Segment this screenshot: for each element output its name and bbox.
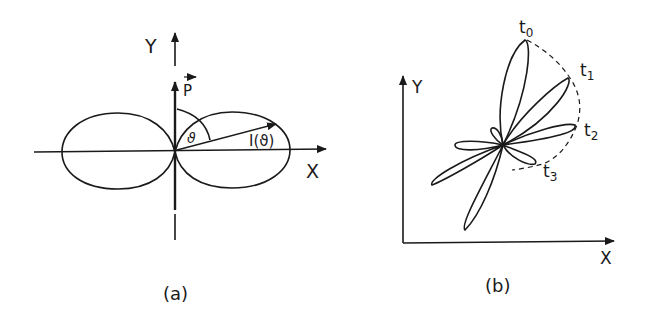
caption-a: (a): [163, 283, 188, 304]
envelope-dashed: [512, 40, 580, 170]
figure-canvas: Y X P ϑ I(ϑ) (a): [0, 0, 645, 328]
x-axis-b: [403, 241, 614, 243]
time-label-t3: t3: [543, 161, 557, 184]
time-label-t0: t0: [519, 17, 533, 40]
lobe-t3: [503, 145, 536, 164]
p-vector-label: P: [183, 82, 192, 100]
y-axis-a-label: Y: [144, 35, 157, 57]
time-label-t2: t2: [584, 120, 598, 143]
radiation-lobes: [432, 40, 576, 230]
y-axis-b-label: Y: [411, 77, 423, 97]
x-axis-a-label: X: [306, 160, 319, 182]
time-label-t1: t1: [580, 60, 594, 83]
x-axis-b-label: X: [600, 248, 612, 268]
angle-label: ϑ: [187, 130, 196, 146]
lobe-left: [455, 141, 503, 150]
panel-a: [34, 33, 326, 240]
caption-b: (b): [485, 275, 510, 296]
intensity-label: I(ϑ): [249, 132, 274, 150]
